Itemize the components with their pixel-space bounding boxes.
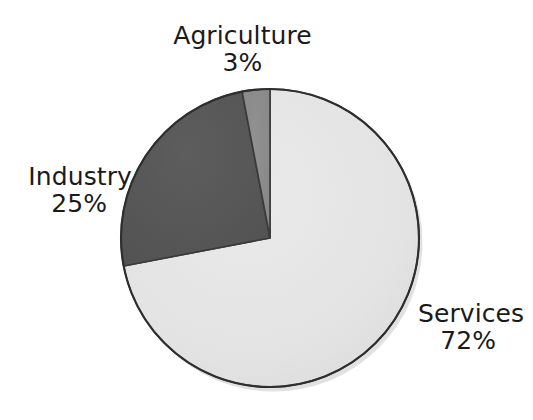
pie-label-agriculture: Agriculture 3% bbox=[0, 22, 533, 76]
pie-label-services-name: Services bbox=[418, 300, 524, 327]
pie-label-industry-name: Industry bbox=[28, 163, 132, 190]
pie-label-services-value: 72% bbox=[418, 327, 524, 354]
pie-label-industry: Industry 25% bbox=[28, 163, 132, 217]
pie-label-industry-value: 25% bbox=[28, 190, 132, 217]
pie-label-agriculture-name: Agriculture bbox=[0, 22, 509, 49]
pie-chart-figure: Agriculture 3% Industry 25% Services 72% bbox=[0, 0, 533, 420]
pie-label-services: Services 72% bbox=[418, 300, 524, 354]
pie-label-agriculture-value: 3% bbox=[0, 49, 509, 76]
